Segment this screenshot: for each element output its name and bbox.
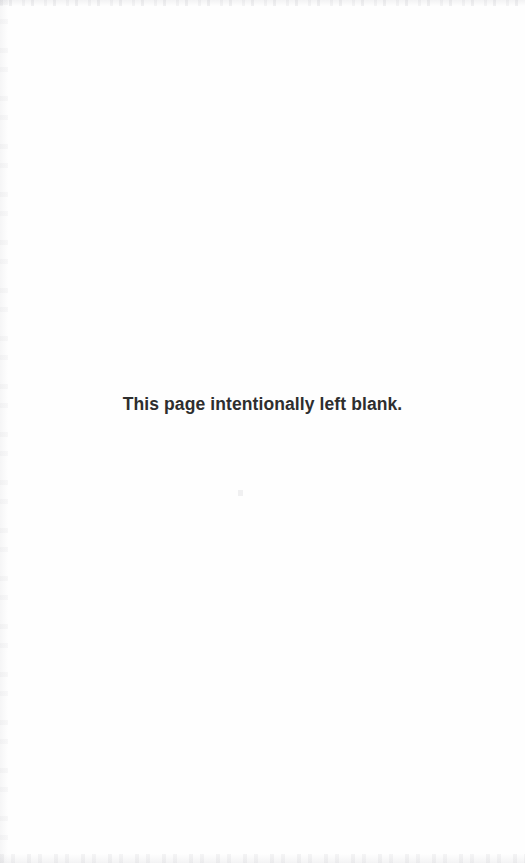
scan-artifact-bottom-edge — [0, 854, 525, 863]
page-intentionally-blank-notice: This page intentionally left blank. — [0, 393, 525, 415]
scan-artifact-top-edge — [0, 0, 525, 6]
scan-artifact-speck — [238, 490, 243, 496]
document-page: This page intentionally left blank. — [0, 0, 525, 863]
scan-artifact-left-edge — [0, 0, 8, 863]
